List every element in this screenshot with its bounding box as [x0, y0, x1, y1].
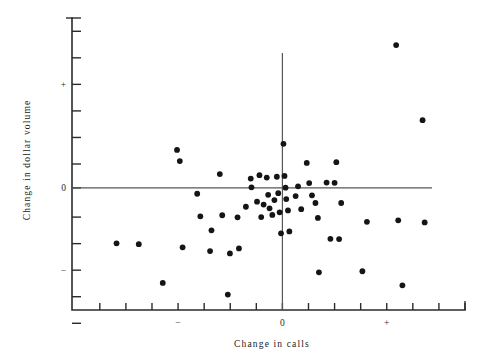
data-point	[309, 192, 315, 198]
data-point	[332, 180, 338, 186]
x-axis-title: Change in calls	[234, 339, 310, 349]
data-point	[333, 159, 339, 165]
data-point	[293, 193, 299, 199]
data-point	[298, 206, 304, 212]
data-point	[180, 244, 186, 250]
y-tick-label: 0	[61, 183, 66, 193]
data-point	[267, 205, 273, 211]
data-point	[315, 215, 321, 221]
data-point	[272, 197, 278, 203]
data-point	[258, 214, 264, 220]
data-point	[360, 268, 366, 274]
data-point	[207, 248, 213, 254]
reference-lines-group	[72, 53, 432, 310]
data-point	[219, 212, 225, 218]
axes-group	[66, 18, 465, 323]
data-point	[194, 191, 200, 197]
data-point	[283, 196, 289, 202]
data-point	[364, 219, 370, 225]
data-point	[275, 190, 281, 196]
x-tick-label: −	[175, 318, 181, 328]
y-tick-label: +	[61, 80, 66, 90]
data-point	[328, 236, 334, 242]
data-point	[209, 227, 215, 233]
data-point	[177, 158, 183, 164]
data-point	[283, 185, 289, 191]
data-point	[422, 220, 428, 226]
scatter-plot-figure: −0++0− Change in calls Change in dollar …	[0, 0, 490, 357]
data-point	[306, 180, 312, 186]
data-point	[286, 229, 292, 235]
data-point	[264, 175, 270, 181]
data-point	[395, 217, 401, 223]
data-point	[277, 209, 283, 215]
data-point	[295, 183, 301, 189]
scatter-plot-svg: −0++0− Change in calls Change in dollar …	[0, 0, 490, 357]
data-point	[174, 147, 180, 153]
data-point	[304, 160, 310, 166]
data-point	[197, 213, 203, 219]
data-point	[316, 269, 322, 275]
data-point	[281, 141, 287, 147]
data-point	[420, 117, 426, 123]
x-tick-label: 0	[280, 318, 285, 328]
data-point	[393, 42, 399, 48]
y-axis-title: Change in dollar volume	[22, 100, 32, 221]
data-point	[254, 199, 260, 205]
data-point	[225, 292, 231, 298]
y-tick-label: −	[61, 266, 66, 276]
data-point	[324, 180, 330, 186]
data-point	[285, 208, 291, 214]
axis-spines	[72, 18, 465, 310]
data-point	[235, 214, 241, 220]
data-point	[400, 282, 406, 288]
data-point	[114, 240, 120, 246]
data-point	[274, 174, 280, 180]
data-point	[265, 192, 271, 198]
data-point	[160, 280, 166, 286]
data-point	[261, 202, 267, 208]
data-point	[227, 251, 233, 257]
data-point	[248, 176, 254, 182]
data-point	[282, 173, 288, 179]
data-points-group	[114, 42, 428, 297]
data-point	[257, 172, 263, 178]
data-point	[249, 184, 255, 190]
x-tick-label: +	[384, 318, 390, 328]
data-point	[336, 236, 342, 242]
data-point	[269, 212, 275, 218]
data-point	[136, 241, 142, 247]
data-point	[243, 204, 249, 210]
data-point	[278, 230, 284, 236]
data-point	[313, 200, 319, 206]
data-point	[236, 246, 242, 252]
data-point	[217, 171, 223, 177]
data-point	[338, 200, 344, 206]
